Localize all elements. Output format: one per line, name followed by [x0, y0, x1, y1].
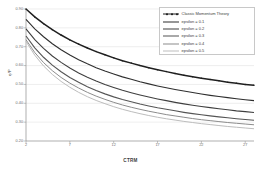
legend-item[interactable]: epsilon = 0.1 — [163, 18, 251, 25]
legend: Classic Momentum Theoryepsilon = 0.1epsi… — [159, 7, 255, 55]
chart-container: 0.900.800.700.600.500.400.300.20 2712172… — [0, 0, 261, 173]
series-marker — [183, 74, 185, 76]
legend-label: Classic Momentum Theory — [182, 12, 230, 16]
legend-swatch-icon — [163, 11, 179, 18]
series-marker — [174, 73, 176, 75]
x-tick-label: 7 — [60, 143, 80, 147]
legend-label: epsilon = 0.5 — [182, 49, 205, 53]
series-marker — [139, 65, 141, 67]
x-tick-label: 2 — [16, 143, 36, 147]
series-marker — [43, 23, 45, 25]
x-tick-label: 12 — [104, 143, 124, 147]
series-marker — [113, 57, 115, 59]
legend-label: epsilon = 0.1 — [182, 20, 205, 24]
series-marker — [87, 47, 89, 49]
legend-label: epsilon = 0.4 — [182, 42, 205, 46]
series-marker — [236, 83, 238, 85]
legend-item[interactable]: epsilon = 0.2 — [163, 25, 251, 32]
series-marker — [218, 80, 220, 82]
x-axis-label: CTRM — [0, 158, 261, 163]
series-marker — [209, 79, 211, 81]
y-tick-label: 0.80 — [1, 26, 23, 30]
series-marker — [157, 69, 159, 71]
legend-swatch-icon — [163, 25, 179, 32]
series-marker — [104, 54, 106, 56]
series-marker — [52, 29, 54, 31]
series-marker — [192, 76, 194, 78]
series-marker — [244, 84, 246, 86]
y-tick-label: 0.60 — [1, 63, 23, 67]
legend-swatch-icon — [163, 18, 179, 25]
series-marker — [34, 16, 36, 18]
series-marker — [227, 81, 229, 83]
series-marker — [201, 77, 203, 79]
legend-label: epsilon = 0.2 — [182, 27, 205, 31]
legend-item[interactable]: epsilon = 0.5 — [163, 47, 251, 54]
series-marker — [69, 39, 71, 41]
legend-swatch-icon — [163, 33, 179, 40]
y-tick-label: 0.90 — [1, 7, 23, 11]
series-marker — [122, 60, 124, 62]
series-marker — [130, 62, 132, 64]
series-marker — [253, 85, 255, 87]
y-tick-label: 0.50 — [1, 82, 23, 86]
legend-label: epsilon = 0.3 — [182, 34, 205, 38]
legend-swatch-icon — [163, 40, 179, 47]
series-marker — [148, 67, 150, 69]
x-tick-label: 22 — [191, 143, 211, 147]
x-tick-label: 27 — [235, 143, 255, 147]
x-tick-label: 17 — [148, 143, 168, 147]
y-tick-label: 0.70 — [1, 45, 23, 49]
y-tick-label: 0.30 — [1, 120, 23, 124]
series-marker — [166, 71, 168, 73]
y-tick-label: 0.40 — [1, 101, 23, 105]
series-marker — [60, 34, 62, 36]
series-marker — [95, 51, 97, 53]
series-marker — [25, 8, 27, 10]
legend-item[interactable]: epsilon = 0.3 — [163, 33, 251, 40]
y-axis-label: η/P — [7, 58, 12, 88]
legend-item[interactable]: Classic Momentum Theory — [163, 11, 251, 18]
series-marker — [78, 43, 80, 45]
legend-swatch-icon — [163, 48, 179, 55]
legend-item[interactable]: epsilon = 0.4 — [163, 40, 251, 47]
